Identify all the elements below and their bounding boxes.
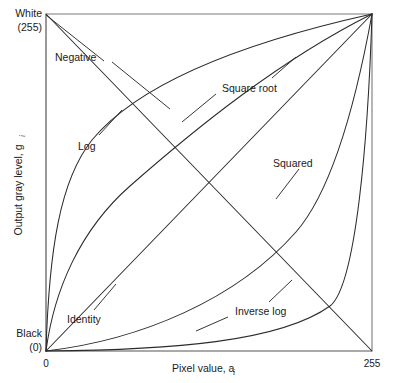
leader-identity <box>94 284 116 310</box>
label-square-root: Square root <box>222 82 277 94</box>
y-axis-top-label-value: (255) <box>17 21 42 33</box>
leader-squared <box>276 169 299 199</box>
grayscale-transform-chart: Negative Log Square root Squared Identit… <box>0 0 393 383</box>
x-axis-title: Pixel value, a i <box>172 362 235 377</box>
leader-inverse-log-up <box>269 280 292 302</box>
x-tick-label-max: 255 <box>364 358 381 369</box>
y-axis-top-label-white: White <box>15 7 42 19</box>
figure-container: Negative Log Square root Squared Identit… <box>0 0 393 383</box>
y-axis-title: Output gray level, g i <box>12 135 27 236</box>
y-axis-title-subscript: i <box>18 135 27 137</box>
label-squared: Squared <box>273 157 313 169</box>
leader-square-root-down <box>182 94 216 122</box>
leader-inverse-log-down <box>196 317 228 331</box>
leader-log <box>99 110 122 135</box>
x-tick-label-min: 0 <box>43 358 49 369</box>
y-axis-bottom-label-black: Black <box>16 327 42 339</box>
y-axis-title-text: Output gray level, g <box>12 144 24 235</box>
leader-square-root-up <box>272 57 296 78</box>
x-axis-title-text: Pixel value, a <box>172 362 235 374</box>
y-axis-bottom-label-value: (0) <box>29 341 42 353</box>
label-inverse-log: Inverse log <box>235 305 287 317</box>
label-negative: Negative <box>55 51 97 63</box>
label-identity: Identity <box>67 313 102 325</box>
x-axis-title-subscript: i <box>233 368 235 377</box>
label-log: Log <box>78 140 96 152</box>
